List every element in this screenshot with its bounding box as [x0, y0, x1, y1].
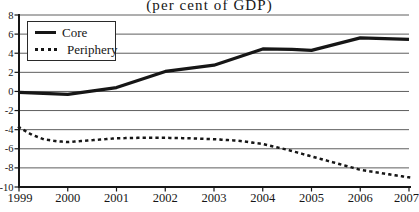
svg-text:-8: -8 — [5, 162, 14, 173]
legend-label-core: Core — [62, 26, 87, 39]
periphery-line-sample — [35, 48, 61, 51]
svg-text:2007: 2007 — [394, 191, 419, 205]
svg-text:2004: 2004 — [250, 191, 276, 205]
legend: Core Periphery — [27, 21, 116, 61]
series-periphery-line — [19, 127, 409, 177]
chart-title: (per cent of GDP) — [0, 0, 419, 14]
svg-text:2006: 2006 — [348, 191, 373, 205]
x-axis-labels: 199920002001200220032004200520062007 — [8, 191, 419, 205]
legend-label-periphery: Periphery — [67, 43, 118, 56]
chart: (per cent of GDP) 86420-2-4-6-8-10199920… — [0, 0, 419, 212]
svg-text:2005: 2005 — [299, 191, 324, 205]
legend-item-periphery: Periphery — [35, 43, 115, 56]
svg-text:4: 4 — [8, 48, 14, 59]
svg-text:2000: 2000 — [55, 191, 80, 205]
svg-text:-2: -2 — [5, 105, 14, 116]
svg-text:2003: 2003 — [202, 191, 227, 205]
svg-text:-6: -6 — [5, 143, 14, 154]
svg-text:6: 6 — [8, 29, 13, 40]
svg-text:0: 0 — [8, 86, 13, 97]
legend-item-core: Core — [35, 26, 115, 39]
svg-text:2002: 2002 — [153, 191, 178, 205]
svg-text:2001: 2001 — [104, 191, 129, 205]
svg-text:-4: -4 — [5, 124, 14, 135]
svg-text:1999: 1999 — [8, 191, 33, 205]
svg-text:2: 2 — [8, 67, 13, 78]
core-line-sample — [35, 31, 56, 35]
y-axis-labels: 86420-2-4-6-8-10 — [0, 10, 14, 193]
